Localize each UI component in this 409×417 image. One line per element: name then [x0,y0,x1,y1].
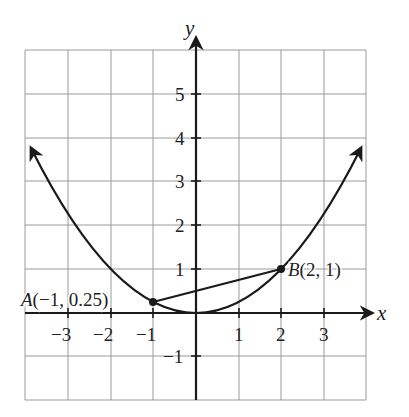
point-b-label: B(2, 1) [288,259,341,281]
y-tick-label: 2 [175,215,185,236]
x-tick-label: −3 [51,324,71,345]
y-tick-label: −1 [163,346,183,367]
y-tick-label: 5 [175,84,185,105]
x-tick-label: 2 [276,324,286,345]
x-tick-label: 1 [234,324,244,345]
y-tick-label: 4 [175,128,185,149]
y-tick-label: 3 [175,171,185,192]
x-tick-label: 3 [319,324,329,345]
point-a [149,298,157,306]
x-tick-label: −2 [93,324,113,345]
point-a-label: A(−1, 0.25) [19,289,108,311]
point-b [277,265,285,273]
x-tick-label: −1 [136,324,156,345]
x-axis-label: x [376,301,387,325]
y-axis-label: y [183,16,195,40]
parabola-graph: x y −3 −2 −1 1 2 3 5 4 3 2 1 −1 A(−1, 0.… [0,0,409,417]
y-tick-label: 1 [175,259,185,280]
